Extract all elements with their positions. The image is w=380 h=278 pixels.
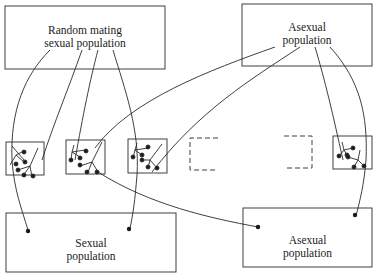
endpoint-dot — [353, 213, 357, 217]
lineage-curve — [75, 50, 98, 160]
endpoint-dot — [26, 229, 30, 233]
lineage-box-5-dashed — [284, 136, 312, 168]
sexual-bottom-label-line1: Sexual — [6, 237, 176, 250]
lineage-curve — [95, 47, 275, 148]
lineage-tree-3 — [131, 143, 162, 170]
asexual-bottom-label: Asexual population — [243, 234, 372, 260]
lineage-tree-1 — [10, 146, 38, 178]
lineage-box-4-dashed — [190, 138, 218, 170]
asexual-top-label-line2: population — [242, 34, 372, 47]
lineage-box-2 — [66, 140, 105, 174]
lineage-tree-6 — [337, 142, 366, 169]
random-mating-label: Random mating sexual population — [5, 24, 165, 50]
lineage-curve — [330, 47, 366, 216]
random-mating-label-line2: sexual population — [5, 37, 165, 50]
random-mating-label-line1: Random mating — [5, 24, 165, 37]
lineage-curve — [42, 50, 82, 160]
asexual-top-label: Asexual population — [242, 21, 372, 47]
sexual-bottom-label-line2: population — [6, 250, 176, 263]
lineage-curve — [98, 172, 258, 227]
asexual-top-label-line1: Asexual — [242, 21, 372, 34]
lineage-curve — [315, 47, 343, 160]
lineage-tree-2 — [69, 142, 102, 174]
endpoint-dot — [256, 225, 260, 229]
endpoint-dot — [127, 227, 131, 231]
asexual-bottom-label-line2: population — [243, 247, 372, 260]
sexual-bottom-label: Sexual population — [6, 237, 176, 263]
asexual-bottom-label-line1: Asexual — [243, 234, 372, 247]
lineage-curve — [12, 50, 50, 230]
